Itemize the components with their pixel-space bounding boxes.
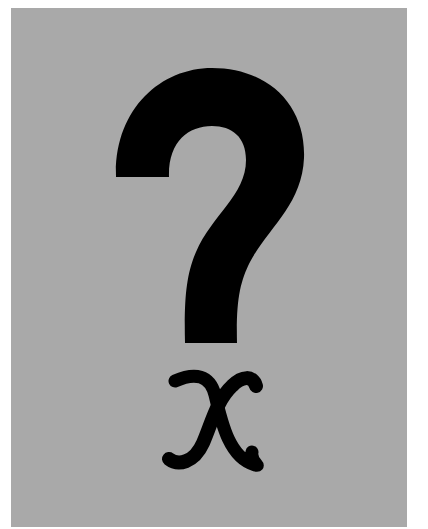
question-mark-icon (116, 68, 304, 343)
illustration (0, 0, 428, 529)
variable-x-icon (169, 376, 257, 465)
